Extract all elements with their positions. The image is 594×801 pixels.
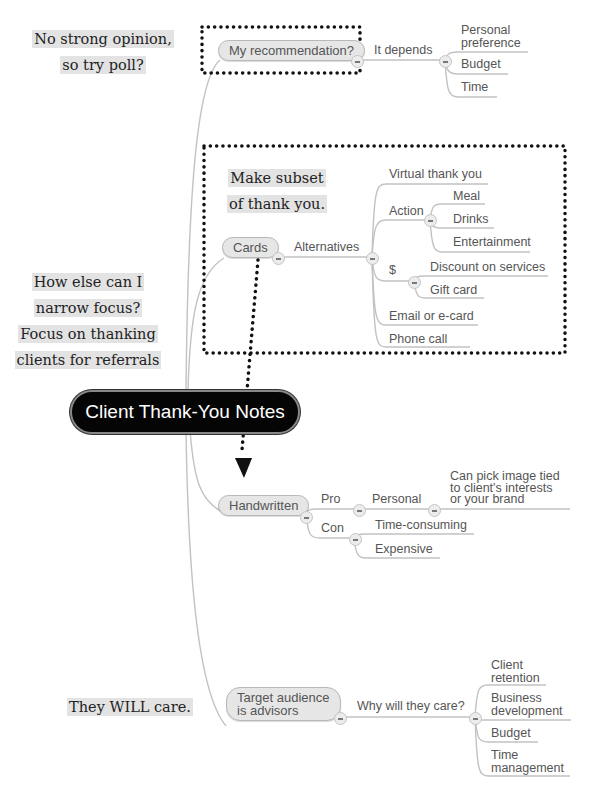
node-cards[interactable]: Cards <box>222 237 279 258</box>
collapse-toggle-alternatives[interactable] <box>366 252 379 265</box>
annotation-no-strong-opinion: No strong opinion, so try poll? <box>28 26 178 78</box>
collapse-toggle-personal[interactable] <box>428 504 441 517</box>
node-personal-preference[interactable]: Personal preference <box>461 24 521 50</box>
node-client-retention[interactable]: Client retention <box>491 659 540 685</box>
collapse-toggle-why-care[interactable] <box>469 712 482 725</box>
node-pro[interactable]: Pro <box>321 493 340 506</box>
collapse-toggle-pro[interactable] <box>353 504 366 517</box>
collapse-toggle-it-depends[interactable] <box>439 55 452 68</box>
node-entertainment[interactable]: Entertainment <box>453 236 531 249</box>
node-budget[interactable]: Budget <box>461 58 501 71</box>
collapse-toggle-con[interactable] <box>349 533 362 546</box>
node-time-management[interactable]: Time management <box>491 749 564 775</box>
node-it-depends[interactable]: It depends <box>374 44 432 57</box>
node-action[interactable]: Action <box>389 205 424 218</box>
annotation-narrow-focus: How else can I narrow focus? Focus on th… <box>8 269 168 373</box>
collapse-toggle-action[interactable] <box>424 214 437 227</box>
node-gift-card[interactable]: Gift card <box>430 284 477 297</box>
node-business-development[interactable]: Business development <box>491 692 563 718</box>
node-why-will-they-care[interactable]: Why will they care? <box>357 700 465 713</box>
collapse-toggle-cards[interactable] <box>272 252 285 265</box>
node-expensive[interactable]: Expensive <box>375 543 433 556</box>
node-discount-on-services[interactable]: Discount on services <box>430 261 545 274</box>
mind-map-canvas: No strong opinion, so try poll? Make sub… <box>0 0 594 801</box>
collapse-toggle-money[interactable] <box>408 276 421 289</box>
annotation-they-will-care: They WILL care. <box>60 694 200 720</box>
central-topic[interactable]: Client Thank-You Notes <box>70 390 300 434</box>
node-target-audience[interactable]: Target audience is advisors <box>226 687 341 721</box>
node-virtual-thank-you[interactable]: Virtual thank you <box>389 168 482 181</box>
node-con[interactable]: Con <box>321 522 344 535</box>
node-audience-budget[interactable]: Budget <box>491 727 531 740</box>
node-email-or-ecard[interactable]: Email or e-card <box>389 310 474 323</box>
collapse-toggle-recommendation[interactable] <box>351 55 364 68</box>
collapse-toggle-target-audience[interactable] <box>334 712 347 725</box>
node-personal-detail[interactable]: Can pick image tied to client's interest… <box>450 471 560 506</box>
annotation-make-subset: Make subset of thank you. <box>222 165 332 217</box>
node-personal[interactable]: Personal <box>372 493 421 506</box>
node-my-recommendation[interactable]: My recommendation? <box>218 40 365 61</box>
node-handwritten[interactable]: Handwritten <box>218 495 309 516</box>
node-money[interactable]: $ <box>389 264 396 277</box>
node-phone-call[interactable]: Phone call <box>389 333 447 346</box>
node-time-consuming[interactable]: Time-consuming <box>375 519 467 532</box>
node-drinks[interactable]: Drinks <box>453 213 488 226</box>
node-time[interactable]: Time <box>461 81 488 94</box>
collapse-toggle-handwritten[interactable] <box>300 511 313 524</box>
node-meal[interactable]: Meal <box>453 190 480 203</box>
node-alternatives[interactable]: Alternatives <box>294 241 359 254</box>
